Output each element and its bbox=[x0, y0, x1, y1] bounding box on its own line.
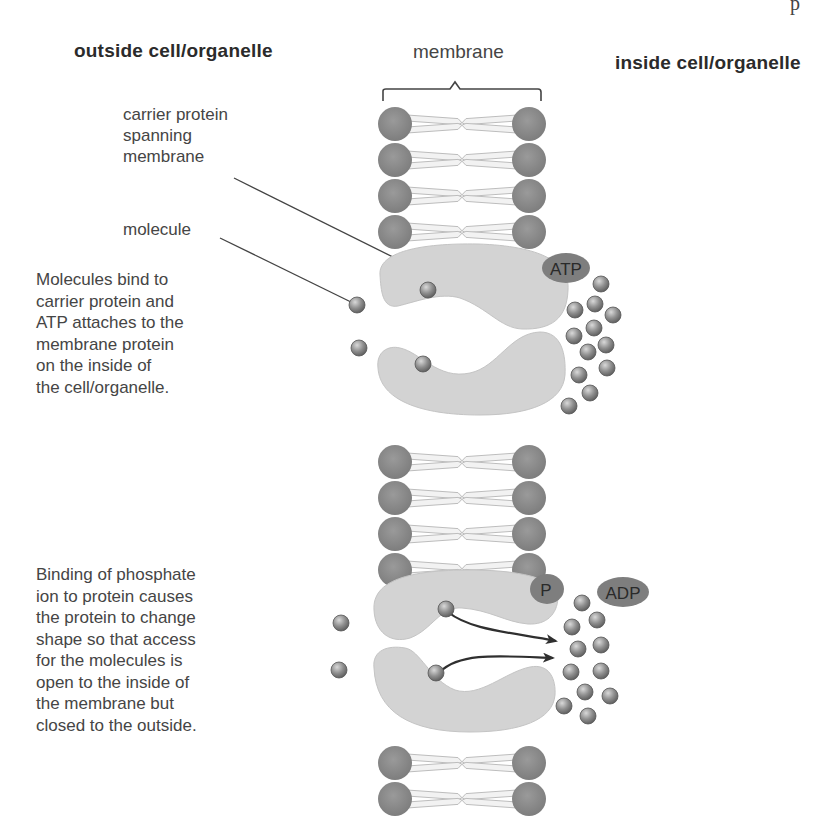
molecule-icon bbox=[587, 296, 603, 312]
lipid-head bbox=[378, 481, 412, 515]
molecule-icon bbox=[567, 302, 583, 318]
molecule-icon bbox=[602, 688, 618, 704]
carrier-protein-bottom-step1 bbox=[378, 332, 565, 415]
molecule-icon bbox=[593, 663, 609, 679]
molecule-icon bbox=[428, 665, 444, 681]
molecule-icon bbox=[561, 398, 577, 414]
phospholipid-pair bbox=[378, 517, 546, 551]
molecule-icon bbox=[570, 641, 586, 657]
membrane-bracket bbox=[383, 82, 541, 101]
lipid-head bbox=[378, 107, 412, 141]
phospholipid-pair bbox=[378, 107, 546, 141]
lipid-head bbox=[512, 481, 546, 515]
molecule-icon bbox=[566, 328, 582, 344]
phospholipid-pair bbox=[378, 143, 546, 177]
lipid-head bbox=[512, 517, 546, 551]
phospholipid-pair bbox=[378, 445, 546, 479]
lipid-head bbox=[378, 782, 412, 816]
molecule-icon bbox=[599, 360, 615, 376]
lipid-head bbox=[512, 143, 546, 177]
molecule-leader-line bbox=[220, 238, 353, 303]
molecule-icon bbox=[564, 619, 580, 635]
lipid-head bbox=[512, 782, 546, 816]
molecule-icon bbox=[563, 664, 579, 680]
molecule-icon bbox=[331, 662, 347, 678]
molecule-icon bbox=[589, 612, 605, 628]
molecule-icon bbox=[593, 276, 609, 292]
lipid-head bbox=[378, 445, 412, 479]
carrier-protein-top-step1 bbox=[380, 244, 568, 329]
phosphate-label: P bbox=[540, 581, 551, 600]
molecule-icon bbox=[556, 698, 572, 714]
molecule-icon bbox=[605, 307, 621, 323]
molecule-icon bbox=[349, 297, 365, 313]
adp-label: ADP bbox=[606, 584, 641, 603]
atp-label: ATP bbox=[550, 260, 582, 279]
lipid-head bbox=[378, 143, 412, 177]
molecule-icon bbox=[574, 595, 590, 611]
molecule-icon bbox=[420, 282, 436, 298]
lipid-head bbox=[512, 179, 546, 213]
molecule-icon bbox=[415, 356, 431, 372]
phospholipid-pair bbox=[378, 782, 546, 816]
molecule-icon bbox=[598, 337, 614, 353]
molecule-icon bbox=[580, 344, 596, 360]
molecule-icon bbox=[586, 320, 602, 336]
molecule-icon bbox=[438, 601, 454, 617]
lipid-head bbox=[378, 746, 412, 780]
molecule-icon bbox=[351, 340, 367, 356]
lipid-head bbox=[378, 517, 412, 551]
molecule-icon bbox=[582, 385, 598, 401]
lipid-head bbox=[512, 215, 546, 249]
lipid-head bbox=[512, 445, 546, 479]
phospholipid-pair bbox=[378, 746, 546, 780]
membrane-diagram: ATP P ADP bbox=[0, 0, 826, 827]
molecule-icon bbox=[593, 637, 609, 653]
lipid-head bbox=[378, 215, 412, 249]
lipid-head bbox=[512, 107, 546, 141]
molecule-icon bbox=[580, 708, 596, 724]
lipid-head bbox=[378, 179, 412, 213]
phospholipid-pair bbox=[378, 179, 546, 213]
phospholipid-pair bbox=[378, 481, 546, 515]
molecule-icon bbox=[571, 367, 587, 383]
molecule-icon bbox=[333, 615, 349, 631]
molecule-icon bbox=[577, 684, 593, 700]
carrier-protein-top-step2 bbox=[374, 570, 558, 640]
lipid-head bbox=[512, 746, 546, 780]
